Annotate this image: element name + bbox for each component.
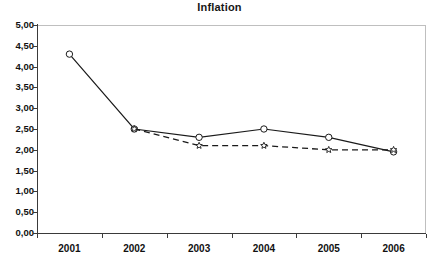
series-plot [0,0,439,263]
data-point-marker-circle [326,134,332,140]
data-point-marker-circle [66,51,72,57]
data-point-marker-star [261,142,267,148]
data-point-marker-circle [196,134,202,140]
series-line-series-solid-circle [69,54,393,152]
data-point-marker-star [326,146,332,152]
series-solid-circle-group [66,51,397,155]
data-point-marker-circle [261,126,267,132]
inflation-line-chart: Inflation 0,000,501,001,502,002,503,003,… [0,0,439,263]
data-point-marker-star [196,142,202,148]
